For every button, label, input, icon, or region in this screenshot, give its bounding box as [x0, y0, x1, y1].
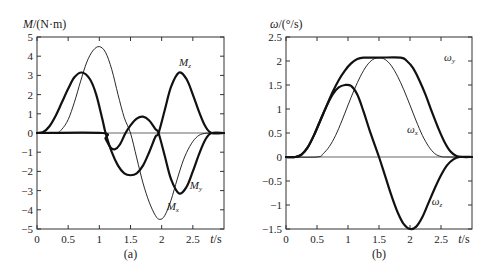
- y-tick-label: 1: [28, 108, 34, 120]
- y-tick-label: 0.5: [268, 127, 282, 139]
- y-tick-label: −2: [21, 165, 33, 177]
- x-axis-title: t/s: [458, 232, 470, 246]
- y-tick-label: 0: [28, 127, 34, 139]
- panel-label: (a): [124, 247, 137, 261]
- x-tick-label: 2: [159, 233, 165, 245]
- y-tick-label: −1: [21, 146, 33, 158]
- y-tick-label: 1.5: [268, 79, 282, 91]
- y-tick-label: 1: [277, 103, 283, 115]
- y-tick-label: 4: [28, 50, 34, 62]
- y-tick-label: −3: [21, 185, 33, 197]
- y-tick-label: −1: [270, 199, 282, 211]
- y-tick-label: −4: [21, 204, 33, 216]
- chart-panel-a: 543210−1−2−3−4−500.511.522.5t/sM/(N·m)Mz…: [21, 17, 224, 261]
- y-tick-label: −1.5: [262, 223, 282, 235]
- series-label: Mx: [166, 200, 180, 214]
- figure-canvas: 543210−1−2−3−4−500.511.522.5t/sM/(N·m)Mz…: [0, 0, 491, 273]
- x-tick-label: 2.5: [186, 233, 200, 245]
- x-tick-label: 0: [34, 233, 40, 245]
- x-tick-label: 1.5: [124, 233, 138, 245]
- y-axis-title: M/(N·m): [22, 17, 66, 31]
- x-tick-label: 1: [97, 233, 103, 245]
- series-line-y: [286, 57, 472, 157]
- series-label: ωz: [432, 195, 443, 209]
- x-tick-label: 1: [345, 233, 351, 245]
- panel-label: (b): [372, 247, 386, 261]
- y-tick-label: −5: [21, 223, 33, 235]
- series-label: Mz: [178, 56, 191, 70]
- y-tick-label: 5: [28, 31, 34, 43]
- y-tick-label: 3: [28, 69, 34, 81]
- series-label: ωx: [407, 123, 419, 137]
- chart-panel-b: 2.521.510.50−0.5−1−1.500.511.522.5t/sω/(…: [262, 17, 472, 261]
- y-axis-title: ω/(°/s): [270, 17, 303, 31]
- series-label: My: [189, 179, 203, 193]
- x-tick-label: 0: [283, 233, 289, 245]
- x-tick-label: 2: [407, 233, 413, 245]
- x-tick-label: 1.5: [372, 233, 386, 245]
- x-tick-label: 0.5: [61, 233, 75, 245]
- y-tick-label: 2: [28, 89, 34, 101]
- y-tick-label: 2: [277, 55, 283, 67]
- y-tick-label: −0.5: [262, 175, 282, 187]
- series-label: ωy: [444, 51, 456, 65]
- y-tick-label: 0: [277, 151, 283, 163]
- y-tick-label: 2.5: [268, 31, 282, 43]
- x-tick-label: 2.5: [434, 233, 448, 245]
- x-tick-label: 0.5: [310, 233, 324, 245]
- x-axis-title: t/s: [210, 232, 222, 246]
